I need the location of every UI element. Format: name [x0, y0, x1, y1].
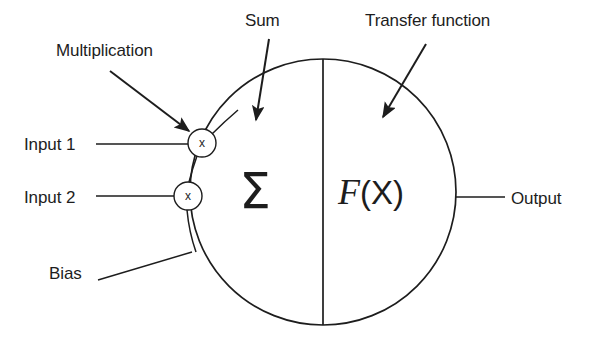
bias-label: Bias [49, 265, 82, 282]
multiply-node-1-glyph: x [190, 137, 214, 149]
transfer-function-callout-arrow [383, 44, 426, 117]
sum-label: Sum [245, 12, 280, 29]
input2-label: Input 2 [24, 189, 75, 206]
transfer-function-label: Transfer function [365, 12, 490, 29]
multiplication-label: Multiplication [56, 42, 153, 59]
transfer-function-symbol-argument: (X) [360, 174, 404, 211]
multiplication-callout-arrow [110, 71, 189, 131]
multiply-node-2-glyph: x [176, 190, 200, 202]
bias-lead-line [98, 252, 192, 280]
mult1-to-mult2-connector [189, 156, 197, 182]
sum-callout-arrow [256, 39, 269, 120]
input1-label: Input 1 [24, 136, 75, 153]
sigma-summation-symbol: Σ [232, 166, 278, 216]
transfer-function-symbol: F(X) [338, 174, 428, 210]
output-label: Output [511, 190, 561, 207]
neuron-diagram: Multiplication Sum Transfer function Inp… [0, 0, 604, 348]
transfer-function-symbol-f: F [338, 172, 360, 212]
